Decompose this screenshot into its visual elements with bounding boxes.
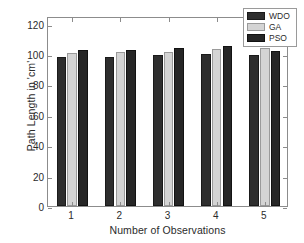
chart-legend: WDOGAPSO [243,8,297,47]
bar-wdo-4 [201,54,211,206]
y-tick-mark [48,56,52,57]
x-tick-label: 2 [104,210,134,221]
y-tick-mark [48,208,52,209]
y-tick-mark-right [283,86,287,87]
bar-pso-5 [271,51,281,206]
y-tick-label: 100 [10,50,44,61]
bar-ga-1 [67,53,77,206]
legend-label: PSO [269,34,287,43]
bar-ga-2 [116,52,126,206]
y-tick-label: 0 [10,202,44,213]
x-tick-label: 4 [201,210,231,221]
y-tick-mark [48,26,52,27]
y-tick-mark-right [283,178,287,179]
x-tick-label: 3 [153,210,183,221]
y-tick-label: 120 [10,19,44,30]
y-tick-label: 60 [10,110,44,121]
x-tick-label: 1 [56,210,86,221]
bar-pso-3 [174,48,184,206]
bar-wdo-2 [105,57,115,206]
bar-chart-figure: Path Length in 'cm' 020406080100120 1234… [0,0,304,243]
y-tick-mark-right [283,117,287,118]
legend-item-pso: PSO [247,33,293,43]
x-tick-mark-top [217,18,218,22]
bar-pso-1 [78,50,88,206]
x-tick-mark [169,202,170,206]
x-axis-label: Number of Observations [47,224,288,236]
y-tick-mark-right [283,56,287,57]
bar-wdo-1 [57,57,67,206]
y-tick-label: 40 [10,141,44,152]
bar-ga-5 [260,48,270,206]
y-tick-mark-right [283,147,287,148]
x-tick-mark [72,202,73,206]
y-tick-label: 20 [10,171,44,182]
legend-swatch-icon [247,34,265,42]
bar-pso-2 [126,50,136,206]
legend-swatch-icon [247,12,265,20]
bar-wdo-5 [249,55,259,206]
y-tick-mark [48,178,52,179]
x-tick-mark-top [169,18,170,22]
bar-pso-4 [223,46,233,206]
y-tick-label: 80 [10,80,44,91]
x-tick-mark [217,202,218,206]
legend-swatch-icon [247,23,265,31]
bar-wdo-3 [153,55,163,206]
y-tick-mark [48,147,52,148]
bar-ga-4 [212,49,222,206]
x-tick-mark-top [72,18,73,22]
legend-item-wdo: WDO [247,11,293,21]
bar-ga-3 [164,52,174,206]
x-tick-mark-top [120,18,121,22]
x-tick-label: 5 [249,210,279,221]
legend-item-ga: GA [247,22,293,32]
legend-label: WDO [269,12,290,21]
legend-label: GA [269,23,281,32]
y-tick-mark [48,117,52,118]
y-tick-mark-right [283,208,287,209]
x-tick-mark [120,202,121,206]
y-tick-mark [48,86,52,87]
x-tick-mark [265,202,266,206]
